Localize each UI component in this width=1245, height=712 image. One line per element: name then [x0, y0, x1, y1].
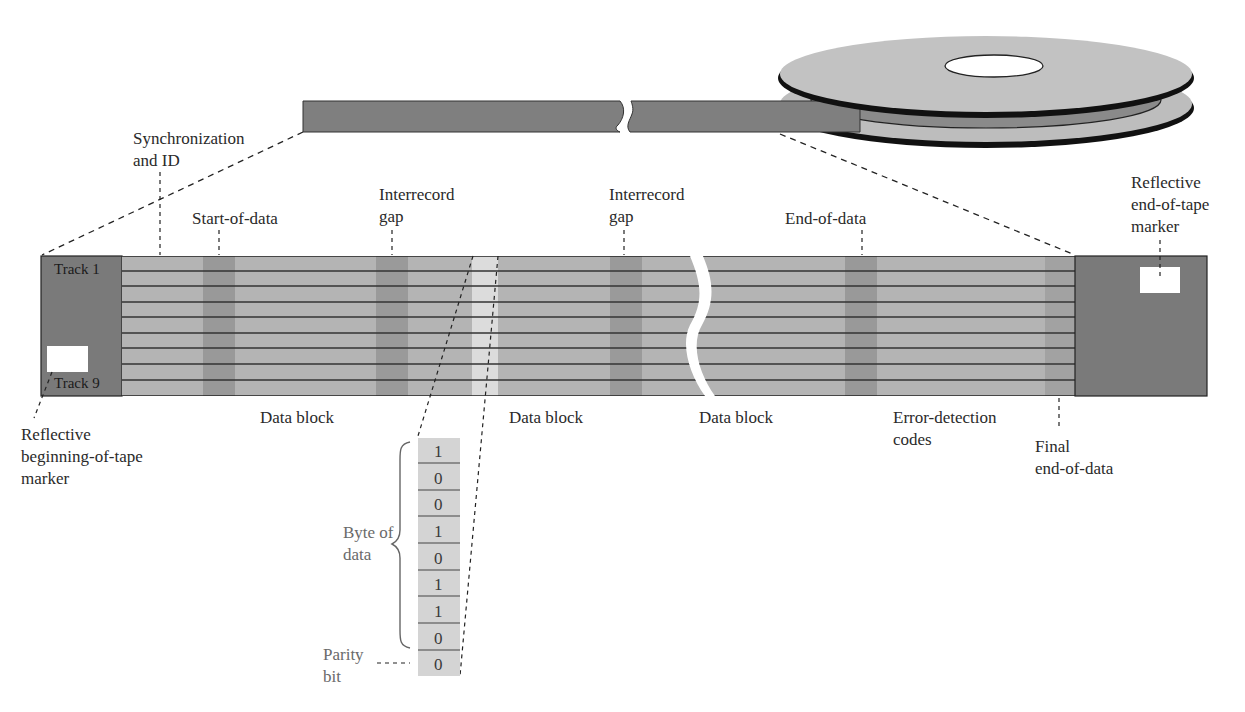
zoom-guide-right — [780, 134, 1075, 255]
eot-label-line3: marker — [1131, 217, 1179, 236]
bit-2: 0 — [434, 469, 443, 488]
parity-bit-value: 0 — [434, 655, 443, 674]
bit-4: 1 — [434, 522, 443, 541]
gap-band-1 — [376, 256, 408, 396]
eot-label-line2: end-of-tape — [1131, 195, 1209, 214]
error-codes-label-line1: Error-detection — [893, 408, 997, 427]
end-of-data-label: End-of-data — [785, 209, 867, 228]
byte-brace-icon — [392, 442, 410, 648]
byte-highlight-band — [472, 256, 498, 396]
bit-7: 1 — [434, 602, 443, 621]
sync-id-label-line2: and ID — [133, 151, 180, 170]
bot-label-line2: beginning-of-tape — [21, 447, 143, 466]
bit-8: 0 — [434, 629, 443, 648]
tape-segment-right — [680, 256, 1080, 396]
data-block-1-label: Data block — [260, 408, 335, 427]
bit-6: 1 — [434, 575, 443, 594]
error-detection-band — [1045, 256, 1075, 396]
data-block-2-label: Data block — [509, 408, 584, 427]
bit-1: 1 — [434, 442, 443, 461]
bit-5: 0 — [434, 549, 443, 568]
bot-label-line3: marker — [21, 469, 69, 488]
parity-label-line2: bit — [323, 667, 341, 686]
gap-band-2 — [610, 256, 642, 396]
final-end-label-line1: Final — [1035, 437, 1070, 456]
error-codes-label-line2: codes — [893, 430, 932, 449]
bot-label-line1: Reflective — [21, 425, 91, 444]
tape-detail — [41, 256, 1207, 396]
start-of-data-band — [203, 256, 235, 396]
data-block-3-label: Data block — [699, 408, 774, 427]
byte-of-data-label-line1: Byte of — [343, 523, 394, 542]
gap1-label-line2: gap — [379, 207, 404, 226]
byte-column: 1 0 0 1 0 1 1 0 0 — [418, 438, 460, 676]
tape-diagram: Track 1 Track 9 Synchronization and ID S… — [0, 0, 1245, 712]
end-of-data-band — [845, 256, 877, 396]
tape-strip — [303, 101, 860, 132]
gap2-label-line1: Interrecord — [609, 185, 685, 204]
final-end-label-line2: end-of-data — [1035, 459, 1114, 478]
eot-marker — [1140, 267, 1180, 293]
byte-of-data-label-line2: data — [343, 545, 372, 564]
track-1-label: Track 1 — [54, 261, 100, 277]
tape-reel-top — [778, 36, 1194, 118]
gap2-label-line2: gap — [609, 207, 634, 226]
gap1-label-line1: Interrecord — [379, 185, 455, 204]
bot-marker — [47, 346, 88, 372]
bit-3: 0 — [434, 495, 443, 514]
tape-segment-left — [122, 256, 722, 396]
track-9-label: Track 9 — [54, 375, 100, 391]
sync-id-label-line1: Synchronization — [133, 129, 245, 148]
start-of-data-label: Start-of-data — [192, 209, 278, 228]
parity-label-line1: Parity — [323, 645, 364, 664]
eot-label-line1: Reflective — [1131, 173, 1201, 192]
reel-hub-hole — [945, 55, 1043, 77]
